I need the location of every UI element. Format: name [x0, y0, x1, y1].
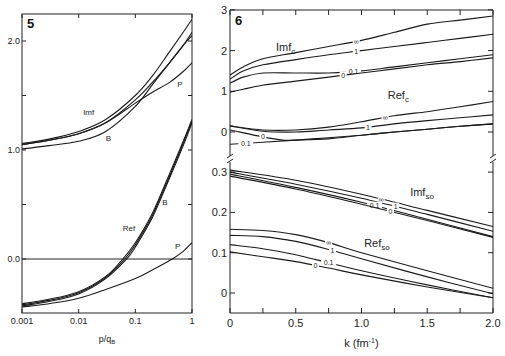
- curve-imf-c-0-1: [230, 55, 493, 83]
- panel-6-number: 6: [235, 13, 242, 28]
- curve-label: P: [175, 242, 180, 251]
- curve-level-label: 1: [394, 203, 398, 210]
- curve-level-label: 0: [388, 208, 392, 215]
- curve-level-label: 0.1: [324, 259, 334, 266]
- curve-group-label: Imfso: [410, 186, 434, 201]
- curve-group-label-sub: c: [291, 47, 295, 56]
- curve-level-label: 0.1: [241, 140, 251, 147]
- curve-level-label: ∞: [326, 239, 331, 246]
- curve-level-label: 0: [314, 262, 318, 269]
- curve-level-label: ∞: [354, 38, 359, 45]
- curve-label: B: [162, 198, 167, 207]
- y-tick-label: 1: [221, 85, 227, 97]
- y-tick-label: 1.0: [7, 145, 20, 155]
- x-tick-label: 0.001: [11, 316, 34, 326]
- x-tick-label: 0.1: [129, 316, 142, 326]
- curve-label: Ref: [123, 224, 136, 233]
- y-tick-label: 0.3: [212, 166, 227, 178]
- x-tick-label: 1.0: [354, 317, 369, 329]
- x-axis-label: k (fm-1): [344, 337, 378, 349]
- y-tick-label: 2: [221, 45, 227, 57]
- curve-imf-mid: [22, 32, 192, 144]
- curve-group-label-sub: c: [405, 95, 409, 104]
- curve-ref-so-1: [230, 235, 493, 293]
- curve-level-label: 0: [261, 133, 265, 140]
- curve-imf-p: [22, 63, 192, 145]
- curve-ref-c-: [230, 102, 493, 131]
- panel-5-number: 5: [27, 16, 34, 31]
- panel-5-frame: [22, 14, 192, 313]
- curve-imf-so-0: [230, 176, 493, 237]
- y-tick-label: 0.2: [212, 206, 227, 218]
- curve-group-label: Refc: [388, 89, 409, 104]
- x-tick-label: 0.01: [70, 316, 88, 326]
- curve-ref-b: [22, 123, 192, 306]
- curve-label: P: [177, 80, 182, 89]
- curve-level-label: 1: [354, 48, 358, 55]
- x-axis-label-rest: ): [375, 337, 379, 349]
- x-tick-label: 2.0: [485, 317, 500, 329]
- curve-label: Imf: [83, 108, 95, 117]
- curve-level-label: 1: [366, 124, 370, 131]
- curve-imf-so-1: [230, 172, 493, 231]
- panel-6: 632100.30.20.1000.51.01.52.0k (fm-1)∞10.…: [212, 4, 501, 349]
- x-axis-label: p/qB: [99, 334, 116, 345]
- curve-group-label-sub: so: [381, 243, 390, 252]
- x-tick-label: 1: [189, 316, 194, 326]
- curve-level-label: ∞: [383, 114, 388, 121]
- y-tick-label: 2.0: [7, 36, 20, 46]
- curve-group-label: Refso: [364, 237, 390, 252]
- curve-ref-c-0-1: [230, 124, 493, 144]
- curve-group-label-sub: so: [425, 192, 434, 201]
- x-tick-label: 0: [227, 317, 233, 329]
- curve-level-label: 1: [331, 247, 335, 254]
- x-axis-label-sub: B: [111, 339, 115, 345]
- figure: 52.01.00.00.0010.010.11p/qBImfBPRefBP632…: [0, 0, 505, 356]
- curve-imf-c-: [230, 16, 493, 75]
- curve-imf-b: [22, 36, 192, 149]
- curve-label: B: [106, 134, 111, 143]
- y-tick-label: 3: [221, 4, 227, 16]
- panel-5: 52.01.00.00.0010.010.11p/qBImfBPRefBP: [7, 14, 194, 345]
- y-tick-label: 0: [221, 287, 227, 299]
- x-tick-label: 1.5: [420, 317, 435, 329]
- y-tick-label: 0.0: [7, 254, 20, 264]
- y-tick-label: 0: [221, 126, 227, 138]
- curve-imf-upper: [22, 19, 192, 143]
- curve-group-label: Imfc: [276, 41, 295, 56]
- curve-ref-c-1: [230, 115, 493, 132]
- curve-level-label: 0: [341, 72, 345, 79]
- y-tick-label: 0.1: [212, 247, 227, 259]
- x-tick-label: 0.5: [288, 317, 303, 329]
